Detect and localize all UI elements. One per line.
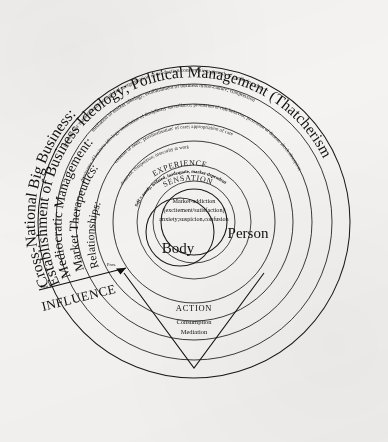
- svg-text:Relationships:: Relationships:: [84, 199, 102, 270]
- influence-proximal-label: Prox.: [107, 262, 116, 267]
- action-line-1: Consumption: [176, 318, 212, 325]
- core-line-1: Market-addiction: [173, 197, 216, 204]
- person-label: Person: [228, 225, 269, 241]
- action-triangle: ACTION Consumption Mediation: [124, 273, 264, 368]
- core-line-2: (excitement/satisfaction): [163, 206, 224, 214]
- influence-distal-label: Dist.: [41, 284, 49, 289]
- ring-5-heading: Relationships:: [84, 199, 102, 270]
- body-label: Body: [162, 240, 195, 256]
- core-text: Market-addiction (excitement/satisfactio…: [159, 197, 269, 256]
- concentric-influence-diagram: Cross-National Big Business: pressure fo…: [0, 0, 388, 442]
- action-line-2: Mediation: [181, 328, 208, 335]
- core-line-3: anxiety;suspicion,confusion: [159, 215, 228, 222]
- action-label: ACTION: [176, 303, 212, 313]
